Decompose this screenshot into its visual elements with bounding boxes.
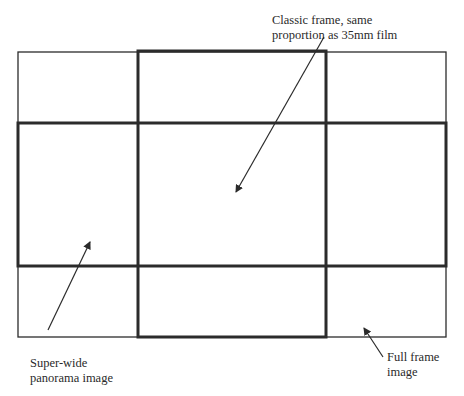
full-frame-label-line2: image [387, 365, 439, 380]
classic-frame-label-line1: Classic frame, same [272, 13, 397, 28]
panorama-label-line1: Super-wide [30, 356, 113, 371]
classic-frame-label: Classic frame, same proportion as 35mm f… [272, 13, 397, 43]
panorama-label-line2: panorama image [30, 371, 113, 386]
full-frame-label-line1: Full frame [387, 350, 439, 365]
panorama-frame-rect [18, 123, 446, 266]
fullframe-arrow [364, 328, 383, 357]
frame-diagram [0, 0, 464, 396]
classic-arrow [236, 37, 324, 192]
full-frame-rect [18, 52, 446, 337]
panorama-label: Super-wide panorama image [30, 356, 113, 386]
classic-frame-label-line2: proportion as 35mm film [272, 28, 397, 43]
full-frame-label: Full frame image [387, 350, 439, 380]
classic-frame-rect [138, 51, 326, 337]
panorama-arrow [48, 242, 90, 330]
